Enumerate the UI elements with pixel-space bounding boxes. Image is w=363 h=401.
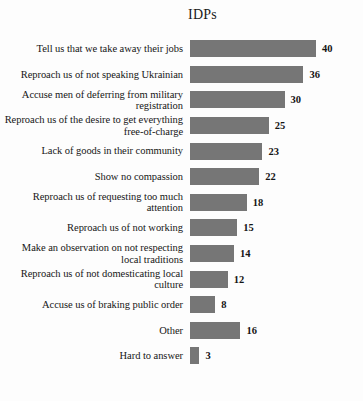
bar-value-label: 3 [199, 350, 210, 361]
bar-chart: IDPs Tell us that we take away their job… [0, 0, 363, 401]
bar-group: 15 [190, 215, 363, 241]
bar-category-label: Show no compassion [0, 171, 190, 182]
bar-row: Other16 [0, 318, 363, 344]
bar-category-label: Reproach us of not speaking Ukrainian [0, 69, 190, 80]
bar-group: 16 [190, 318, 363, 344]
bar-category-label: Lack of goods in their community [0, 145, 190, 156]
bar-value-label: 18 [247, 197, 264, 208]
bar-category-label: Accuse us of braking public order [0, 299, 190, 310]
bar-value-label: 30 [285, 94, 302, 105]
bar [190, 168, 259, 185]
bar-group: 30 [190, 87, 363, 113]
bar [190, 91, 285, 108]
bar-value-label: 12 [228, 274, 245, 285]
bar-row: Reproach us of not domesticating local c… [0, 266, 363, 292]
bar-value-label: 8 [215, 299, 226, 310]
bar [190, 40, 316, 57]
bar-row: Show no compassion22 [0, 164, 363, 190]
bar-value-label: 25 [269, 120, 286, 131]
bar-value-label: 36 [303, 69, 320, 80]
bar-value-label: 23 [262, 146, 279, 157]
bar-row: Lack of goods in their community23 [0, 138, 363, 164]
bar [190, 322, 240, 339]
bar-row: Reproach us of requesting too much atten… [0, 190, 363, 216]
bar [190, 117, 269, 134]
bar-category-label: Reproach us of requesting too much atten… [0, 191, 190, 214]
bar-category-label: Reproach us of not working [0, 222, 190, 233]
bar-value-label: 40 [316, 43, 333, 54]
chart-title: IDPs [0, 7, 363, 23]
bar-group: 3 [190, 343, 363, 369]
bar-group: 14 [190, 241, 363, 267]
bar [190, 66, 303, 83]
bar [190, 245, 234, 262]
bar-group: 8 [190, 292, 363, 318]
bar [190, 194, 247, 211]
bar-row: Accuse men of deferring from military re… [0, 87, 363, 113]
bar-row: Make an observation on not respecting lo… [0, 241, 363, 267]
bar-value-label: 22 [259, 171, 276, 182]
bar-row: Accuse us of braking public order8 [0, 292, 363, 318]
bar [190, 296, 215, 313]
bar-value-label: 16 [240, 325, 257, 336]
bar [190, 219, 237, 236]
bar-group: 40 [190, 36, 363, 62]
bar-category-label: Accuse men of deferring from military re… [0, 89, 190, 112]
bar [190, 143, 262, 160]
bar-value-label: 14 [234, 248, 251, 259]
bar-category-label: Hard to answer [0, 350, 190, 361]
bar [190, 271, 228, 288]
bar-row: Reproach us of the desire to get everyth… [0, 113, 363, 139]
bar-group: 12 [190, 266, 363, 292]
bar-category-label: Tell us that we take away their jobs [0, 43, 190, 54]
bar-category-label: Other [0, 325, 190, 336]
bar-group: 23 [190, 138, 363, 164]
bar-category-label: Reproach us of the desire to get everyth… [0, 114, 190, 137]
bar-row: Hard to answer3 [0, 343, 363, 369]
bar [190, 347, 199, 364]
bar-row: Reproach us of not speaking Ukrainian36 [0, 62, 363, 88]
plot-area: Tell us that we take away their jobs40Re… [0, 32, 363, 392]
bar-row: Tell us that we take away their jobs40 [0, 36, 363, 62]
bar-group: 36 [190, 62, 363, 88]
bar-value-label: 15 [237, 222, 254, 233]
bar-category-label: Reproach us of not domesticating local c… [0, 268, 190, 291]
bar-group: 25 [190, 113, 363, 139]
bar-group: 18 [190, 190, 363, 216]
bar-group: 22 [190, 164, 363, 190]
bar-row: Reproach us of not working15 [0, 215, 363, 241]
bar-category-label: Make an observation on not respecting lo… [0, 242, 190, 265]
